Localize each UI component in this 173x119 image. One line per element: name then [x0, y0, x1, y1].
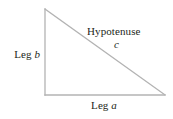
hypotenuse-label-word: Hypotenuse [87, 25, 141, 37]
leg-b-label-variable: b [34, 48, 40, 60]
leg-a-label: Leg a [78, 99, 130, 111]
right-triangle-figure: Leg b Hypotenuse c Leg a [0, 0, 173, 119]
leg-b-label-word: Leg [14, 48, 31, 60]
leg-b-label: Leg b [10, 48, 40, 60]
hypotenuse-label-variable: c [114, 38, 119, 50]
leg-a-label-variable: a [111, 99, 117, 111]
hypotenuse-label: Hypotenuse [87, 25, 141, 37]
triangle-hypotenuse-line [45, 9, 165, 95]
hypotenuse-variable-label: c [87, 38, 146, 50]
leg-a-label-word: Leg [91, 99, 108, 111]
